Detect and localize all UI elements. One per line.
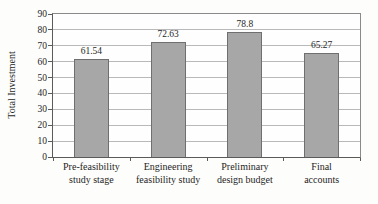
y-tick-label: 90 <box>0 8 47 20</box>
plot-area: 61.5472.6378.865.27 <box>52 13 361 158</box>
y-tick-label: 60 <box>0 56 47 68</box>
y-tick <box>48 93 52 94</box>
y-tick <box>48 141 52 142</box>
y-tick <box>48 125 52 126</box>
category-label-line: accounts <box>276 173 368 186</box>
bar-chart: Total Investment 61.5472.6378.865.27 010… <box>0 0 378 204</box>
y-tick-label: 10 <box>0 135 47 147</box>
y-tick <box>48 109 52 110</box>
bar-value-label: 65.27 <box>292 40 352 51</box>
y-tick-label: 0 <box>0 151 47 163</box>
y-tick-label: 50 <box>0 72 47 84</box>
bar-value-label: 72.63 <box>138 29 198 40</box>
y-tick <box>48 157 52 158</box>
bar-value-label: 61.54 <box>61 46 121 57</box>
y-tick <box>48 61 52 62</box>
bar-engineering-feasibility-study <box>151 42 186 157</box>
y-tick <box>48 14 52 15</box>
bar-final-accounts <box>304 53 339 157</box>
bar-pre-feasibility-study-stage <box>74 59 109 157</box>
bar-preliminary-design-budget <box>227 32 262 157</box>
y-tick <box>48 45 52 46</box>
bar-value-label: 78.8 <box>215 19 275 30</box>
y-tick-label: 70 <box>0 40 47 52</box>
y-tick-label: 20 <box>0 119 47 131</box>
y-tick-label: 80 <box>0 24 47 36</box>
gridline <box>53 29 360 30</box>
category-label-line: Final <box>276 160 368 173</box>
y-tick <box>48 77 52 78</box>
category-label: Finalaccounts <box>276 160 368 186</box>
y-tick-label: 30 <box>0 103 47 115</box>
y-tick-label: 40 <box>0 87 47 99</box>
y-tick <box>48 29 52 30</box>
